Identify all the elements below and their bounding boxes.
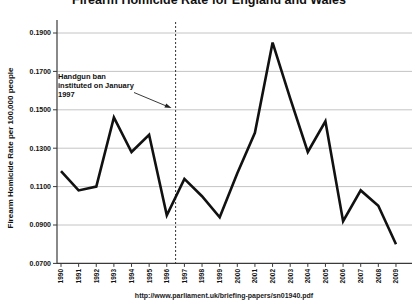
annotation-line-2: instituted on January xyxy=(58,81,134,90)
y-tick-label: 0.1900 xyxy=(30,29,52,36)
x-tick-label: 2007 xyxy=(357,269,364,284)
annotation-arrow xyxy=(134,93,168,107)
y-tick-label: 0.0700 xyxy=(30,260,52,267)
x-tick-label: 2008 xyxy=(375,269,382,284)
x-tick-label: 1998 xyxy=(198,269,205,284)
x-tick-label: 2004 xyxy=(304,269,311,284)
handgun-ban-annotation: Handgun ban instituted on January 1997 xyxy=(58,72,134,99)
x-tick-label: 2009 xyxy=(392,269,399,284)
x-tick-label: 1990 xyxy=(57,269,64,284)
y-tick-label: 0.0900 xyxy=(30,221,52,228)
y-tick-label: 0.1300 xyxy=(30,145,52,152)
plot-area: 0.19000.17000.15000.13000.11000.09000.07… xyxy=(0,0,418,306)
x-tick-label: 1992 xyxy=(93,269,100,284)
x-tick-label: 1991 xyxy=(75,269,82,284)
chart: Firearm Homicide Rate for England and Wa… xyxy=(0,0,418,306)
x-tick-label: 2003 xyxy=(287,269,294,284)
x-tick-label: 2000 xyxy=(234,269,241,284)
x-tick-label: 1999 xyxy=(216,269,223,284)
x-tick-label: 2001 xyxy=(251,269,258,284)
y-tick-label: 0.1700 xyxy=(30,68,52,75)
x-tick-label: 2006 xyxy=(339,269,346,284)
x-tick-label: 1995 xyxy=(146,269,153,284)
source-url: http://www.parliament.uk/briefing-papers… xyxy=(30,292,418,299)
annotation-line-1: Handgun ban xyxy=(58,72,134,81)
x-tick-label: 1996 xyxy=(163,269,170,284)
x-tick-label: 2002 xyxy=(269,269,276,284)
x-tick-label: 1997 xyxy=(181,269,188,284)
x-tick-label: 2005 xyxy=(322,269,329,284)
annotation-arrowhead xyxy=(164,103,171,108)
annotation-line-3: 1997 xyxy=(58,90,134,99)
x-tick-label: 1993 xyxy=(110,269,117,284)
y-tick-label: 0.1500 xyxy=(30,106,52,113)
x-tick-label: 1994 xyxy=(128,269,135,284)
y-tick-label: 0.1100 xyxy=(30,183,51,190)
